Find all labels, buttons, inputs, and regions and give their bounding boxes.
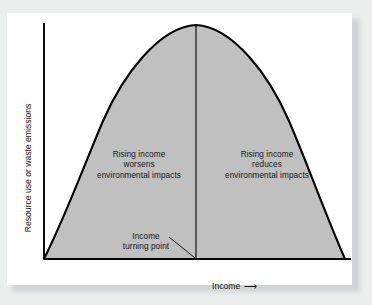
turning-point-caption-line2: turning point	[115, 242, 177, 252]
left-region-caption-line3: environmental impacts	[83, 171, 195, 181]
left-region-caption-line2: worsens	[83, 160, 195, 170]
x-axis-label-text: Income	[212, 281, 240, 291]
curve-area-fill	[44, 25, 345, 259]
turning-point-caption: Income turning point	[115, 232, 177, 253]
x-axis-arrow-icon: ⟶	[240, 281, 256, 291]
x-axis-label-group: Income⟶	[212, 281, 256, 291]
right-region-caption-line3: environmental impacts	[211, 171, 323, 181]
left-region-caption-line1: Rising income	[83, 150, 195, 160]
figure-page: Resource use or waste emissions Income⟶ …	[0, 0, 372, 305]
turning-point-caption-line1: Income	[115, 232, 177, 242]
y-axis-label: Resource use or waste emissions	[23, 83, 33, 253]
kuznets-curve-plot	[7, 13, 352, 285]
right-region-caption-line2: reduces	[211, 160, 323, 170]
figure-card: Resource use or waste emissions Income⟶ …	[7, 13, 352, 285]
left-region-caption: Rising income worsens environmental impa…	[83, 150, 195, 181]
right-region-caption: Rising income reduces environmental impa…	[211, 150, 323, 181]
right-region-caption-line1: Rising income	[211, 150, 323, 160]
